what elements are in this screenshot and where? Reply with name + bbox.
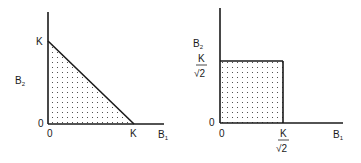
left-origin-y-label: 0 (38, 118, 44, 129)
diagram-canvas: K B2 0 0 K B1 B2 K √2 0 0 K √2 B1 (0, 0, 361, 163)
square-region (220, 61, 283, 123)
left-x-axis-label: B1 (158, 129, 169, 141)
left-origin-x-label: 0 (47, 128, 53, 139)
right-x-bound-numerator: K (280, 128, 287, 139)
right-y-axis-label: B2 (193, 38, 204, 50)
right-x-bound-denominator: √2 (276, 143, 287, 154)
right-origin-x-label: 0 (219, 128, 225, 139)
right-y-bound-numerator: K (198, 53, 205, 64)
left-y-intercept-label: K (36, 36, 43, 47)
right-panel: B2 K √2 0 0 K √2 B1 (193, 8, 344, 154)
left-panel: K B2 0 0 K B1 (15, 12, 169, 141)
right-x-axis-label: B1 (333, 129, 344, 141)
left-x-intercept-label: K (130, 128, 137, 139)
right-y-bound-denominator: √2 (194, 68, 205, 79)
right-origin-y-label: 0 (209, 117, 215, 128)
left-y-axis-label: B2 (15, 75, 26, 87)
